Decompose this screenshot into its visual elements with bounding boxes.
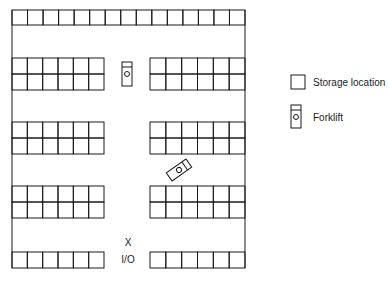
storage-cell (183, 10, 199, 25)
storage-cell (12, 58, 27, 74)
storage-cell (213, 122, 229, 138)
storage-cell (58, 186, 73, 202)
storage-cell (43, 58, 58, 74)
storage-cell (73, 186, 88, 202)
storage-cell (182, 186, 198, 202)
storage-cell (89, 138, 104, 154)
storage-cell (73, 58, 88, 74)
storage-cell (229, 10, 245, 25)
forklift-icon (166, 159, 191, 181)
storage-cell (12, 186, 27, 202)
storage-cell (89, 252, 104, 268)
storage-cell (198, 138, 214, 154)
storage-cell (12, 74, 27, 90)
storage-cell (58, 122, 73, 138)
storage-cell (43, 202, 58, 218)
storage-cell (150, 138, 166, 154)
storage-location-icon (291, 75, 305, 89)
storage-cell (74, 10, 90, 25)
storage-cell (229, 252, 245, 268)
storage-cell (89, 186, 104, 202)
storage-cell (182, 74, 198, 90)
storage-cell (213, 186, 229, 202)
storage-cell (12, 252, 27, 268)
storage-cell (58, 74, 73, 90)
storage-cell (150, 74, 166, 90)
forklift-icon (291, 105, 301, 128)
storage-cell (150, 186, 166, 202)
storage-cell (229, 186, 245, 202)
storage-cell (43, 186, 58, 202)
storage-cell (73, 74, 88, 90)
storage-cell (213, 252, 229, 268)
storage-cell (150, 122, 166, 138)
storage-cell (182, 122, 198, 138)
storage-cell (166, 122, 182, 138)
storage-cell (58, 252, 73, 268)
storage-cell (73, 252, 88, 268)
storage-cell (136, 10, 152, 25)
storage-cell (89, 74, 104, 90)
forklift-icon (122, 62, 132, 86)
legend-label-forklift: Forklift (313, 112, 343, 123)
storage-cell (229, 138, 245, 154)
storage-cell (167, 10, 183, 25)
storage-cell (213, 202, 229, 218)
storage-cell (27, 74, 42, 90)
storage-cell (43, 10, 59, 25)
storage-cell (105, 10, 121, 25)
storage-cell (73, 202, 88, 218)
storage-cell (198, 10, 214, 25)
legend: Storage location Forklift (291, 75, 385, 128)
storage-cell (150, 58, 166, 74)
storage-cell (89, 202, 104, 218)
storage-cell (229, 202, 245, 218)
storage-cell (89, 58, 104, 74)
legend-label-storage: Storage location (313, 77, 385, 88)
storage-cell (198, 122, 214, 138)
storage-cell (58, 202, 73, 218)
io-marker: X (125, 237, 132, 248)
storage-cell (182, 252, 198, 268)
storage-cell (198, 202, 214, 218)
storage-cell (198, 186, 214, 202)
storage-cell (27, 202, 42, 218)
storage-cell (166, 186, 182, 202)
storage-cell (27, 252, 42, 268)
storage-cell (198, 252, 214, 268)
storage-cell (152, 10, 168, 25)
storage-cell (12, 122, 27, 138)
io-label: I/O (121, 254, 135, 265)
storage-cell (213, 138, 229, 154)
storage-cell (89, 122, 104, 138)
storage-cell (27, 122, 42, 138)
storage-cell (198, 74, 214, 90)
storage-cell (28, 10, 44, 25)
storage-cell (59, 10, 75, 25)
storage-cell (12, 138, 27, 154)
storage-cell (73, 122, 88, 138)
storage-cell (43, 138, 58, 154)
storage-cell (166, 252, 182, 268)
storage-cell (58, 138, 73, 154)
storage-cell (182, 58, 198, 74)
storage-cell (166, 202, 182, 218)
storage-cell (121, 10, 137, 25)
storage-cell (166, 74, 182, 90)
storage-cell (182, 138, 198, 154)
storage-cell (229, 58, 245, 74)
storage-cell (182, 202, 198, 218)
storage-cell (150, 202, 166, 218)
storage-cell (213, 74, 229, 90)
storage-cell (27, 186, 42, 202)
storage-cell (73, 138, 88, 154)
storage-cell (58, 58, 73, 74)
storage-cell (12, 10, 28, 25)
storage-cell (43, 74, 58, 90)
storage-cell (43, 252, 58, 268)
storage-cell (198, 58, 214, 74)
storage-cell (150, 252, 166, 268)
storage-cell (43, 122, 58, 138)
storage-cell (166, 138, 182, 154)
storage-cell (214, 10, 230, 25)
